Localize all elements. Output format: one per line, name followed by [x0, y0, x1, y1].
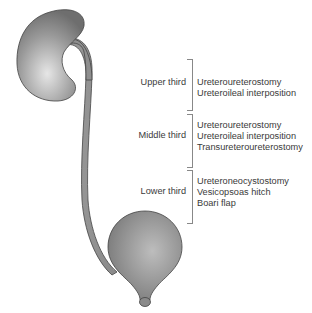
procedure-item: Ureteroileal interposition: [197, 88, 296, 100]
urinary-tract-illustration: [0, 0, 312, 313]
procedure-item: Ureteroureterostomy: [197, 120, 281, 132]
procedure-item: Ureteroneocystostomy: [197, 176, 289, 188]
bladder: [108, 211, 182, 300]
region-label-middle: Middle third: [130, 130, 186, 142]
procedure-item: Transureteroureterostomy: [197, 142, 303, 154]
bracket-upper: [187, 59, 193, 111]
region-label-upper: Upper third: [130, 77, 186, 89]
procedure-item: Ureteroileal interposition: [197, 131, 296, 143]
urethra: [140, 298, 151, 307]
bracket-middle: [187, 114, 193, 168]
kidney: [17, 10, 84, 101]
region-label-lower: Lower third: [130, 186, 186, 198]
procedure-item: Ureteroureterostomy: [197, 77, 281, 89]
procedure-item: Boari flap: [197, 198, 236, 210]
bracket-lower: [187, 170, 193, 224]
procedure-item: Vesicopsoas hitch: [197, 187, 271, 199]
